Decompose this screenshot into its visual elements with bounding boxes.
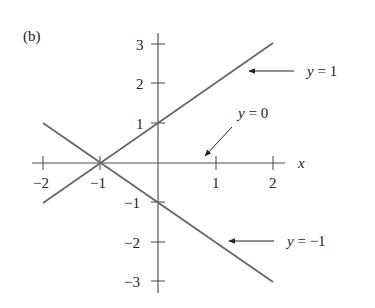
arrow-y0 — [205, 127, 232, 156]
y-tick-label: 2 — [136, 76, 144, 92]
x-tick-label: −1 — [90, 175, 106, 191]
y-tick-label: −2 — [124, 235, 140, 251]
y-tick-label: 1 — [136, 116, 144, 132]
y-tick-label: 3 — [136, 37, 144, 53]
chart-plot: −2 −1 1 2 x 3 2 1 −1 −2 −3 y = 1 y = 0 y… — [0, 0, 375, 308]
y-tick-label: −3 — [124, 274, 140, 290]
annotation-ym1: y = −1 — [285, 233, 326, 249]
y-tick-label: −1 — [124, 195, 140, 211]
x-tick-label: −2 — [33, 175, 49, 191]
x-tick-label: 2 — [269, 175, 277, 191]
annotation-y0: y = 0 — [236, 105, 268, 121]
annotation-y1: y = 1 — [305, 63, 337, 79]
x-tick-label: 1 — [212, 175, 220, 191]
x-axis-label: x — [297, 155, 305, 171]
